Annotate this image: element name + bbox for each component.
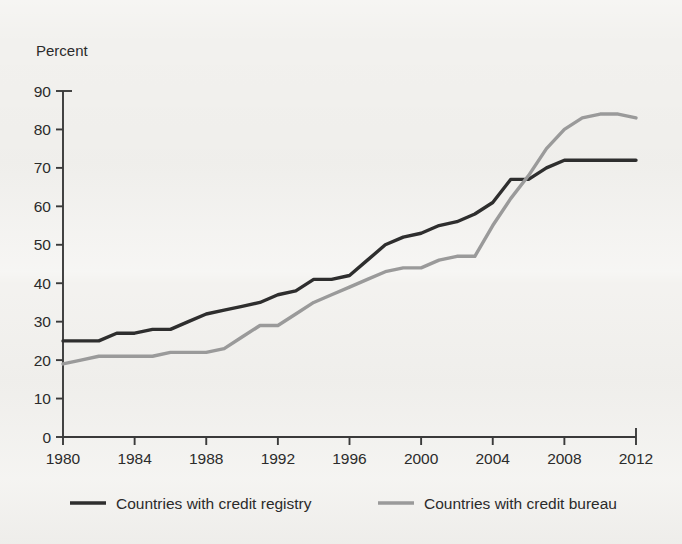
legend-label: Countries with credit registry [116,495,312,512]
y-axis-tick-label: 30 [34,313,52,330]
x-axis-tick-label: 1996 [332,450,366,467]
legend-label: Countries with credit bureau [424,495,617,512]
x-axis-tick-label: 1984 [117,450,152,467]
chart-figure: Percent 0102030405060708090 198019841988… [0,0,682,544]
x-axis-tick-label: 1988 [189,450,223,467]
x-axis-tick-labels: 198019841988199219962000200420082012 [46,450,653,467]
y-axis-tick-label: 0 [42,429,51,446]
x-axis-tick-label: 2004 [476,450,511,467]
y-axis-tick-label: 10 [34,390,52,407]
y-axis-tick-label: 70 [34,159,52,176]
chart-legend: Countries with credit registryCountries … [70,495,617,512]
y-axis-tick-label: 60 [34,198,52,215]
x-axis-tick-label: 2012 [619,450,653,467]
y-axis-tick-label: 20 [34,352,52,369]
series-lines [63,114,636,364]
x-axis-tick-label: 2000 [404,450,439,467]
line-chart: Percent 0102030405060708090 198019841988… [0,0,682,544]
y-axis-tick-label: 40 [34,275,52,292]
x-axis-tick-label: 1992 [261,450,295,467]
y-axis-tick-label: 80 [34,121,52,138]
y-axis-tick-labels: 0102030405060708090 [34,83,52,446]
y-axis-tick-label: 50 [34,236,52,253]
y-axis-title: Percent [36,42,89,59]
x-axis-tick-label: 1980 [46,450,81,467]
x-axis-tick-label: 2008 [547,450,581,467]
series-line [63,114,636,364]
series-line [63,160,636,341]
y-axis-tick-label: 90 [34,83,52,100]
